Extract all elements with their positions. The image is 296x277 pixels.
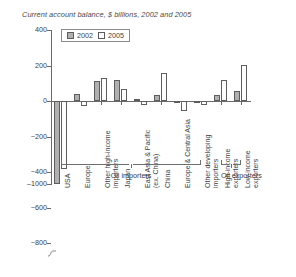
bar-2002[interactable]: [54, 101, 60, 184]
x-tick: [161, 101, 162, 105]
legend-item-2005[interactable]: 2005: [98, 32, 124, 39]
y-tick-label: −400: [31, 168, 47, 175]
group-brace: [61, 160, 201, 169]
bar-2002[interactable]: [114, 80, 120, 101]
group-brace-label: Oil importers: [61, 171, 201, 180]
x-tick: [221, 101, 222, 105]
bar-2002[interactable]: [234, 91, 240, 101]
legend-item-2002[interactable]: 2002: [67, 32, 93, 39]
x-tick: [81, 101, 82, 105]
x-tick: [241, 101, 242, 105]
y-tick-label: 0: [43, 97, 47, 104]
chart-legend: 2002 2005: [61, 29, 130, 42]
bar-2005[interactable]: [241, 65, 247, 101]
bar-2002[interactable]: [74, 94, 80, 101]
legend-swatch-2002: [67, 32, 74, 39]
y-tick: [47, 208, 51, 209]
y-tick-label: −200: [31, 133, 47, 140]
group-brace-label: Oil exporters: [221, 171, 241, 180]
y-tick-label: −800: [31, 239, 47, 246]
bar-2005[interactable]: [161, 73, 167, 101]
bar-2002[interactable]: [214, 95, 220, 101]
x-axis-label: Other developing importers: [204, 135, 220, 188]
bar-2002[interactable]: [154, 95, 160, 101]
x-tick: [121, 101, 122, 105]
legend-label-2002: 2002: [77, 32, 93, 39]
bar-2002[interactable]: [194, 101, 200, 103]
x-tick: [141, 101, 142, 105]
bar-2005[interactable]: [221, 80, 227, 101]
y-tick-label: −600: [31, 204, 47, 211]
bar-2002[interactable]: [94, 81, 100, 101]
y-tick-label: 200: [35, 62, 47, 69]
bar-2005[interactable]: [101, 78, 107, 101]
bar-2005[interactable]: [61, 101, 67, 169]
bar-2002[interactable]: [134, 99, 140, 101]
x-tick: [181, 101, 182, 105]
bar-2002[interactable]: [174, 101, 180, 103]
bar-2005[interactable]: [121, 89, 127, 101]
x-tick: [101, 101, 102, 105]
x-tick: [61, 101, 62, 105]
axis-break-icon: [48, 249, 56, 258]
chart-container: Current account balance, $ billions, 200…: [0, 0, 296, 277]
x-tick: [201, 101, 202, 105]
y-tick-label: 400: [35, 26, 47, 33]
y-tick-label: ‒1000: [27, 180, 47, 187]
legend-label-2005: 2005: [108, 32, 124, 39]
x-axis-label: Low-income exporters: [244, 150, 260, 188]
legend-swatch-2005: [98, 32, 105, 39]
y-tick: [47, 243, 51, 244]
chart-title: Current account balance, $ billions, 200…: [22, 10, 191, 19]
group-brace: [221, 160, 241, 169]
